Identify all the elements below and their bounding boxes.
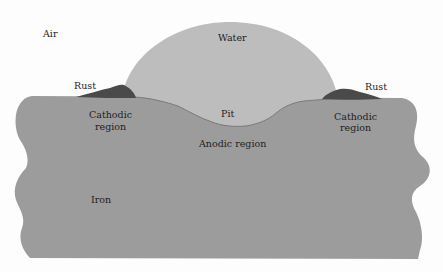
rust-right-label: Rust: [365, 81, 387, 92]
iron-label: Iron: [91, 194, 111, 205]
anodic-region-label: Anodic region: [198, 138, 266, 149]
rust-left-label: Rust: [74, 80, 96, 91]
cathodic-right-label-line2: region: [340, 122, 371, 133]
water-label: Water: [218, 32, 247, 43]
cathodic-right-label-line1: Cathodic: [334, 111, 377, 122]
air-label: Air: [42, 28, 58, 39]
cathodic-left-label-line1: Cathodic: [89, 109, 132, 120]
cathodic-left-label-line2: region: [95, 121, 126, 132]
diagram-canvas: Air Water Rust Rust Cathodic region Cath…: [0, 0, 443, 272]
corrosion-diagram: Air Water Rust Rust Cathodic region Cath…: [0, 0, 443, 272]
pit-label: Pit: [221, 108, 234, 119]
